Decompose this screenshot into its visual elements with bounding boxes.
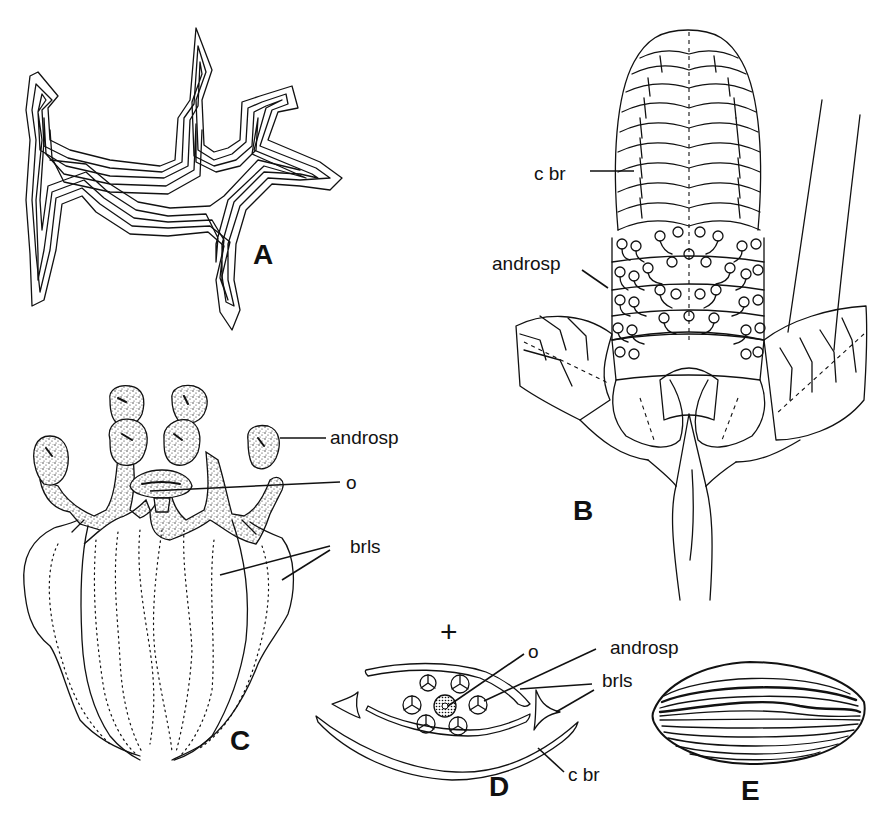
panel-d-label: D [489, 771, 509, 802]
panel-a-contours [26, 28, 342, 330]
panel-c-bracteoles [24, 520, 294, 760]
panel-c-leader-brls-2 [282, 550, 330, 580]
panel-d-lateral-right [534, 690, 560, 730]
panel-d-leader-brls-2 [556, 690, 594, 712]
panel-b-annotation-c-br: c br [534, 163, 566, 184]
panel-c-annotation-androsp: androsp [330, 427, 399, 448]
panel-d-leader-c-br [538, 748, 564, 772]
panel-c-annotation-o: o [346, 472, 357, 493]
panel-d-annotation-androsp: androsp [610, 637, 679, 658]
panel-b: c br androsp B [492, 30, 867, 600]
panel-a: A [26, 28, 342, 330]
panel-d-axis-symbol: + [440, 615, 458, 648]
panel-b-label: B [573, 495, 593, 526]
panel-e-label: E [741, 775, 760, 806]
panel-c-label: C [230, 725, 250, 756]
panel-d-annotation-o: o [528, 641, 539, 662]
panel-b-leaf-edge [788, 100, 822, 332]
panel-e-outline [653, 662, 865, 764]
panel-d: + o androsp brls c br D [316, 615, 679, 802]
panel-d-leader-brls-1 [520, 684, 592, 689]
panel-d-lateral-left [332, 692, 360, 718]
panel-d-annotation-c-br: c br [568, 764, 600, 785]
panel-b-basal-bracts [516, 306, 867, 600]
panel-d-leader-androsp [484, 649, 596, 701]
panel-e: E [653, 662, 865, 806]
panel-a-label: A [253, 239, 273, 270]
panel-b-leader-androsp [582, 270, 608, 288]
panel-d-annotation-brls: brls [602, 670, 633, 691]
panel-c: androsp o brls C [24, 386, 399, 760]
panel-b-leaf-edge [834, 115, 860, 350]
panel-c-annotation-brls: brls [350, 536, 381, 557]
panel-b-cone [615, 30, 760, 340]
panel-b-annotation-androsp: androsp [492, 253, 561, 274]
botanical-plate: A [0, 0, 881, 814]
panel-e-striations [660, 678, 860, 759]
